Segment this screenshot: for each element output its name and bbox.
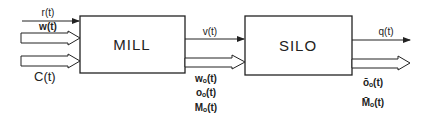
oo-bar-label: ōₒ(t) <box>363 77 383 88</box>
silo-block: SILO <box>245 16 352 75</box>
mill-inputs: r(t) w(t) C(t) <box>21 7 80 84</box>
Mo-bar-label: M̄ₒ(t) <box>362 97 384 108</box>
wo-label: wₒ(t) <box>194 73 217 84</box>
mill-block: MILL <box>80 16 185 73</box>
w-flow-arrow <box>21 31 80 45</box>
silo-outputs: q(t) ōₒ(t) M̄ₒ(t) <box>352 26 410 108</box>
silo-output-flow-arrow <box>352 56 410 70</box>
w-label: w(t) <box>38 21 57 32</box>
r-label: r(t) <box>42 7 55 18</box>
oo-label: oₒ(t) <box>196 87 216 98</box>
mill-silo-flow-arrow <box>185 55 245 69</box>
q-label: q(t) <box>379 26 394 37</box>
v-label: v(t) <box>203 26 217 37</box>
silo-label: SILO <box>279 37 317 54</box>
mill-label: MILL <box>113 36 150 53</box>
Mo-label: Mₒ(t) <box>195 102 217 113</box>
c-label: C(t) <box>34 69 56 84</box>
c-flow-arrow <box>21 54 80 68</box>
mill-to-silo: v(t) wₒ(t) oₒ(t) Mₒ(t) <box>185 26 245 113</box>
block-diagram: MILL SILO r(t) w(t) C(t) v(t) wₒ(t) oₒ(t… <box>0 0 431 125</box>
